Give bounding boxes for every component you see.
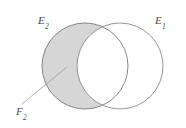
- label-set-e2-base: E: [38, 14, 45, 26]
- venn-diagram-figure: E2 E1 F2: [0, 0, 186, 128]
- label-set-e2-subscript: 2: [45, 22, 49, 31]
- label-region-f2-subscript: 2: [23, 113, 27, 122]
- label-region-f2: F2: [16, 106, 26, 120]
- label-set-e1-subscript: 1: [162, 22, 166, 31]
- label-set-e1-base: E: [155, 14, 162, 26]
- label-region-f2-base: F: [16, 105, 23, 117]
- label-set-e1: E1: [155, 15, 165, 29]
- label-set-e2: E2: [38, 15, 48, 29]
